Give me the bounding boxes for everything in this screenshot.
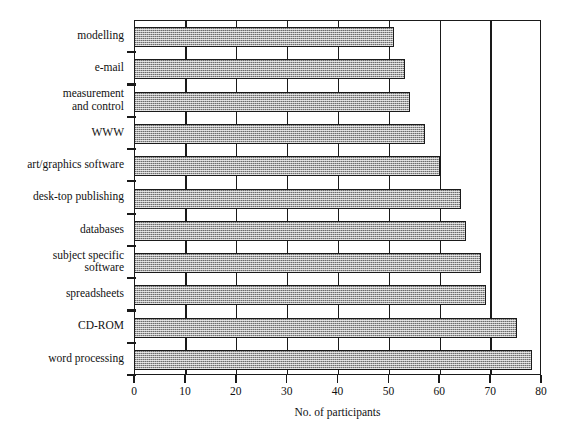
category-tick: [127, 148, 136, 150]
category-label: measurementand control: [0, 87, 124, 112]
bar: [135, 124, 425, 144]
x-axis-tick-label: 0: [114, 385, 154, 397]
category-tick: [127, 51, 136, 53]
category-label: spreadsheets: [0, 287, 124, 300]
category-label-line: and control: [0, 100, 124, 113]
category-label: word processing: [0, 352, 124, 365]
category-label-line: spreadsheets: [0, 287, 124, 300]
category-label: desk-top publishing: [0, 190, 124, 203]
category-label-line: modelling: [0, 29, 124, 42]
category-label: CD-ROM: [0, 319, 124, 332]
category-tick: [127, 245, 136, 247]
category-tick: [127, 83, 136, 85]
x-axis-tick-40: [337, 375, 339, 383]
x-axis-tick-80: [540, 375, 542, 383]
x-axis-tick-0: [133, 375, 135, 383]
bar: [135, 92, 410, 112]
category-label: art/graphics software: [0, 158, 124, 171]
category-label: subject specificsoftware: [0, 249, 124, 274]
category-label: databases: [0, 223, 124, 236]
bar: [135, 253, 481, 273]
bar: [135, 318, 517, 338]
x-axis-tick-label: 60: [419, 385, 459, 397]
category-label-line: measurement: [0, 87, 124, 100]
x-axis-tick-30: [286, 375, 288, 383]
bar-chart-figure: modellinge-mailmeasurementand controlWWW…: [0, 0, 573, 439]
category-label-line: e-mail: [0, 61, 124, 74]
category-tick: [127, 180, 136, 182]
x-axis-tick-70: [489, 375, 491, 383]
x-axis-tick-label: 20: [216, 385, 256, 397]
x-axis-tick-60: [438, 375, 440, 383]
category-tick: [127, 309, 136, 311]
bar: [135, 189, 461, 209]
category-label: e-mail: [0, 61, 124, 74]
category-label-line: databases: [0, 223, 124, 236]
category-tick: [127, 277, 136, 279]
category-tick: [127, 116, 136, 118]
category-label-line: WWW: [0, 126, 124, 139]
category-label-line: CD-ROM: [0, 319, 124, 332]
x-axis-tick-10: [184, 375, 186, 383]
bar: [135, 221, 466, 241]
category-label-line: software: [0, 261, 124, 274]
category-label: WWW: [0, 126, 124, 139]
category-label: modelling: [0, 29, 124, 42]
category-label-line: word processing: [0, 352, 124, 365]
x-axis-title: No. of participants: [134, 406, 541, 418]
bar: [135, 27, 394, 47]
x-axis-tick-label: 80: [521, 385, 561, 397]
x-axis-tick-label: 70: [470, 385, 510, 397]
bar: [135, 285, 486, 305]
category-tick: [127, 213, 136, 215]
category-axis-labels: modellinge-mailmeasurementand controlWWW…: [0, 20, 129, 375]
x-axis-tick-20: [235, 375, 237, 383]
x-axis-tick-label: 50: [368, 385, 408, 397]
category-label-line: subject specific: [0, 249, 124, 262]
bar: [135, 59, 405, 79]
x-axis-tick-label: 10: [165, 385, 205, 397]
category-label-line: art/graphics software: [0, 158, 124, 171]
x-axis-tick-50: [388, 375, 390, 383]
x-axis-tick-label: 40: [318, 385, 358, 397]
x-axis-tick-label: 30: [267, 385, 307, 397]
bar: [135, 156, 440, 176]
category-label-line: desk-top publishing: [0, 190, 124, 203]
bar: [135, 350, 532, 370]
category-tick: [127, 342, 136, 344]
plot-area: [134, 20, 541, 375]
